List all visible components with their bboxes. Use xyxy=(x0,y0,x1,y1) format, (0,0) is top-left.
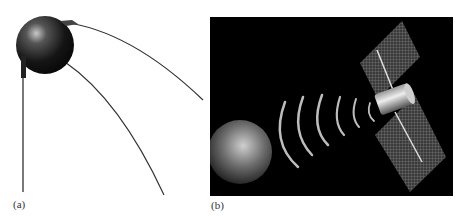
earth-icon xyxy=(210,120,272,184)
satellite-illustration xyxy=(210,17,453,196)
panel-b-label: (b) xyxy=(211,199,224,211)
panel-a-sputnik xyxy=(0,0,205,220)
sputnik-image xyxy=(0,0,205,220)
signal-waves xyxy=(280,95,374,167)
panel-b-satellite xyxy=(210,17,453,196)
panel-a-label: (a) xyxy=(13,198,25,210)
